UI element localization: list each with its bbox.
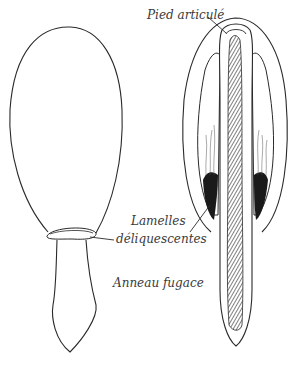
- diagram-canvas: Pied articulé Lamelles déliquescentes An…: [0, 0, 292, 375]
- section-mushroom: [183, 18, 287, 346]
- label-lamelles: Lamelles: [131, 214, 186, 228]
- leader-anneau: [90, 237, 114, 240]
- label-deliquescentes: déliquescentes: [116, 232, 207, 246]
- label-pied-articule: Pied articulé: [147, 8, 224, 22]
- label-anneau-fugace: Anneau fugace: [113, 276, 204, 290]
- cap-outline: [10, 27, 122, 233]
- stem-hollow-hatched: [227, 36, 243, 331]
- mushroom-drawing: [0, 0, 292, 375]
- exterior-mushroom: [10, 27, 122, 352]
- gills-left: [203, 172, 218, 220]
- ring: [47, 228, 96, 239]
- gills-right: [254, 172, 268, 220]
- stem-outline: [53, 240, 97, 352]
